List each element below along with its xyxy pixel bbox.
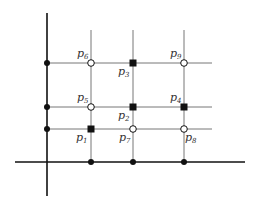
p6-open-circle-icon — [88, 60, 95, 67]
p7-label: p7 — [119, 131, 131, 145]
axis-dot-icon — [130, 159, 136, 165]
p4-label: p4 — [170, 91, 182, 105]
point-grid-diagram: p1p2p3p4p5p6p7p8p9 — [0, 0, 257, 207]
p1-filled-square-icon — [88, 126, 95, 133]
axis-dot-icon — [88, 159, 94, 165]
p3-label: p3 — [118, 65, 130, 79]
p7-open-circle-icon — [130, 126, 137, 133]
axis-dot-icon — [44, 126, 50, 132]
p9-label: p9 — [170, 47, 182, 61]
axis-tick-dots — [44, 60, 187, 165]
axis-dot-icon — [44, 60, 50, 66]
p1-label: p1 — [76, 131, 88, 145]
p3-filled-square-icon — [130, 60, 137, 67]
axis-dot-icon — [181, 159, 187, 165]
axis-dot-icon — [44, 104, 50, 110]
p6-label: p6 — [77, 47, 89, 61]
p2-label: p2 — [118, 109, 130, 123]
p5-open-circle-icon — [88, 104, 95, 111]
p8-label: p8 — [185, 131, 197, 145]
p4-filled-square-icon — [181, 104, 188, 111]
p9-open-circle-icon — [181, 60, 188, 67]
p5-label: p5 — [77, 91, 89, 105]
p2-filled-square-icon — [130, 104, 137, 111]
